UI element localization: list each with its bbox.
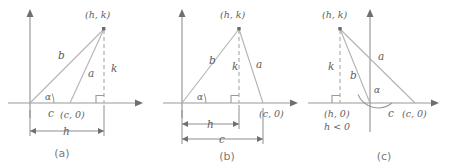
point-c-label-a: (c, 0)	[60, 109, 85, 120]
side-b-label-b: b	[209, 54, 216, 66]
x-axis-arrowhead-c	[431, 100, 439, 107]
panel-b: (h, k) b k a α (c, 0) h c (b)	[155, 0, 310, 168]
segment-b-b	[182, 29, 239, 103]
panel-c: (h, k) a b k α (h, 0) h < 0 c (c, 0) (c)	[300, 0, 461, 168]
y-axis-arrowhead-c	[367, 9, 374, 17]
apex-point-marker-b	[237, 27, 240, 30]
angle-label-a: α	[45, 92, 51, 102]
dimension-c-label-b: c	[219, 133, 225, 145]
panel-caption-b: (b)	[219, 150, 235, 163]
y-axis-arrowhead-a	[27, 9, 34, 17]
dimension-arrow-right-c-b	[257, 136, 263, 142]
dimension-arrow-right-h-a	[98, 128, 104, 134]
x-axis-arrowhead-a	[135, 100, 143, 107]
panel-a: (h, k) b a k α c (c, 0) h (a)	[0, 0, 155, 168]
panel-caption-c: (c)	[377, 150, 392, 163]
dimension-h-label-a: h	[63, 125, 70, 137]
dimension-arrow-right-h-b	[233, 121, 239, 127]
point-c-label-b: (c, 0)	[259, 108, 284, 119]
apex-point-marker-a	[102, 27, 105, 30]
segment-b-a	[30, 29, 104, 103]
apex-label-b: (h, k)	[220, 9, 246, 20]
angle-arc-c	[358, 95, 392, 108]
figure-root: (h, k) b a k α c (c, 0) h (a)	[0, 0, 461, 168]
right-angle-marker-c	[332, 96, 340, 104]
angle-label-b: α	[197, 92, 203, 102]
side-a-label-b: a	[256, 58, 262, 70]
dimension-arrow-left-c-b	[182, 136, 188, 142]
y-axis-arrowhead-b	[179, 9, 186, 17]
condition-label-c: h < 0	[324, 121, 350, 132]
angle-label-c: α	[374, 85, 380, 95]
base-c-short-label-a: c	[48, 107, 54, 119]
dimension-h-label-b: h	[207, 118, 214, 130]
base-c-short-label-c: c	[388, 107, 394, 119]
dimension-arrow-left-h-b	[182, 121, 188, 127]
panel-caption-a: (a)	[54, 147, 69, 160]
side-a-label-c: a	[378, 50, 384, 62]
segment-a-a	[70, 29, 104, 103]
angle-arc-a	[52, 94, 54, 103]
altitude-k-label-b: k	[232, 60, 238, 72]
right-angle-marker-b	[231, 96, 239, 104]
apex-point-marker-c	[338, 27, 341, 30]
apex-label-a: (h, k)	[85, 9, 111, 20]
angle-arc-b	[204, 94, 206, 103]
apex-label-c: (h, k)	[322, 9, 348, 20]
dimension-arrow-left-h-a	[30, 128, 36, 134]
side-b-label-c: b	[350, 69, 357, 81]
foot-point-label-c: (h, 0)	[324, 108, 350, 119]
segment-b-c	[340, 29, 370, 103]
altitude-k-label-a: k	[111, 62, 117, 74]
side-b-label-a: b	[58, 49, 65, 61]
side-a-label-a: a	[88, 67, 94, 79]
right-angle-marker-a	[96, 96, 104, 104]
x-axis-arrowhead-b	[290, 100, 298, 107]
point-c-label-c: (c, 0)	[402, 108, 427, 119]
altitude-k-label-c: k	[328, 60, 334, 72]
